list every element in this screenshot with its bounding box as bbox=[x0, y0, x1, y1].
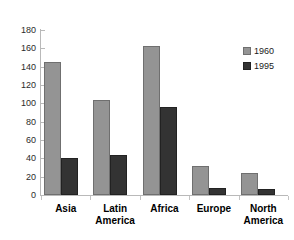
legend-item-1995: 1995 bbox=[243, 60, 274, 72]
x-axis-tick bbox=[90, 196, 91, 200]
x-axis-tick bbox=[239, 196, 240, 200]
y-axis-tick-label: 140 bbox=[0, 63, 36, 72]
x-axis-tick bbox=[189, 196, 190, 200]
bar-europe-1960 bbox=[192, 166, 209, 195]
bar-north-america-1995 bbox=[258, 189, 275, 195]
bar-latin-america-1960 bbox=[93, 100, 110, 195]
y-axis-tick-label: 160 bbox=[0, 44, 36, 53]
y-axis-tick-label: 180 bbox=[0, 26, 36, 35]
category-label-north: NorthAmerica bbox=[223, 203, 294, 227]
bar-africa-1960 bbox=[143, 46, 160, 195]
category-label-line2: America bbox=[75, 215, 155, 227]
legend-swatch-1995 bbox=[243, 62, 251, 70]
y-axis-tick-label: 100 bbox=[0, 99, 36, 108]
legend-swatch-1960 bbox=[243, 47, 251, 55]
legend-label-1960: 1960 bbox=[254, 45, 274, 57]
bar-chart: 020406080100120140160180 AsiaLatinAmeric… bbox=[0, 0, 294, 240]
bar-africa-1995 bbox=[160, 107, 177, 195]
bar-europe-1995 bbox=[209, 188, 226, 195]
bar-latin-america-1995 bbox=[110, 155, 127, 195]
y-axis-tick-label: 40 bbox=[0, 154, 36, 163]
y-axis-tick-label: 0 bbox=[0, 191, 36, 200]
y-axis-tick-label: 80 bbox=[0, 118, 36, 127]
x-axis-tick bbox=[140, 196, 141, 200]
legend-item-1960: 1960 bbox=[243, 45, 274, 57]
category-label-line2: America bbox=[223, 215, 294, 227]
x-axis-tick bbox=[41, 196, 42, 200]
bar-asia-1995 bbox=[61, 158, 78, 195]
bar-north-america-1960 bbox=[241, 173, 258, 195]
legend: 19601995 bbox=[243, 45, 274, 75]
y-axis-tick-label: 60 bbox=[0, 136, 36, 145]
bar-asia-1960 bbox=[44, 62, 61, 195]
legend-label-1995: 1995 bbox=[254, 60, 274, 72]
y-axis-tick-label: 20 bbox=[0, 173, 36, 182]
x-axis-line bbox=[40, 195, 288, 196]
category-label-line1: North bbox=[223, 203, 294, 215]
x-axis-tick bbox=[288, 196, 289, 200]
y-axis-tick-label: 120 bbox=[0, 81, 36, 90]
